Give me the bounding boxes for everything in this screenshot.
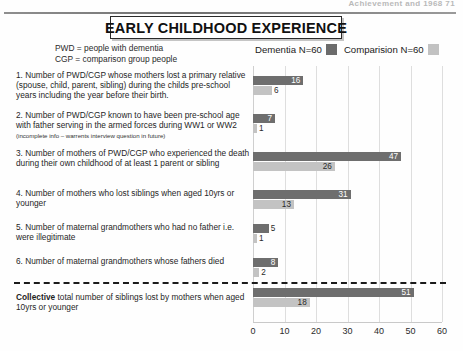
bar-value-4-comparison: 13 bbox=[282, 200, 294, 209]
legend-item-dementia: Dementia N=60 bbox=[255, 44, 337, 55]
x-tick-label-40: 40 bbox=[374, 326, 384, 336]
bar-1-comparison: 6 bbox=[253, 86, 272, 95]
legend-item-comparison: Comparision N=60 bbox=[344, 44, 439, 55]
abbreviation-key: PWD = people with dementia CGP = compari… bbox=[55, 43, 177, 64]
bar-value-6-dementia: 8 bbox=[271, 258, 279, 267]
bar-group-3: 4726 bbox=[253, 152, 442, 172]
x-tick-label-10: 10 bbox=[279, 326, 289, 336]
bar-value-collective-comparison: 18 bbox=[298, 298, 310, 307]
bar-value-6-comparison: 2 bbox=[259, 268, 266, 277]
bar-value-5-comparison: 1 bbox=[257, 234, 264, 243]
item-note-2: (incomplete info – warrents interview qu… bbox=[16, 131, 252, 141]
bar-1-dementia: 16 bbox=[253, 76, 303, 85]
item-number-4: 4. bbox=[16, 188, 23, 198]
item-text-6: Number of maternal grandmothers whose fa… bbox=[25, 256, 224, 266]
item-number-3: 3. bbox=[16, 148, 23, 158]
bar-value-4-dementia: 31 bbox=[339, 190, 351, 199]
item-number-2: 2. bbox=[16, 110, 23, 120]
bar-group-6: 82 bbox=[253, 258, 442, 278]
x-tick-label-0: 0 bbox=[250, 326, 255, 336]
bar-value-5-dementia: 5 bbox=[269, 224, 276, 233]
bar-group-collective: 5118 bbox=[253, 288, 442, 308]
key-line-cgp: CGP = comparison group people bbox=[55, 54, 177, 65]
bar-group-5: 51 bbox=[253, 224, 442, 244]
item-number-5: 5. bbox=[16, 222, 23, 232]
bar-value-1-dementia: 16 bbox=[291, 76, 303, 85]
item-text-1: Number of PWD/CGP whose mothers lost a p… bbox=[16, 70, 245, 100]
bar-3-comparison: 26 bbox=[253, 162, 335, 171]
bar-5-dementia: 5 bbox=[253, 224, 269, 233]
item-label-2: 2. Number of PWD/CGP known to have been … bbox=[16, 110, 252, 141]
chart-legend: Dementia N=60 Comparision N=60 bbox=[255, 44, 439, 55]
item-label-collective: Collective total number of siblings lost… bbox=[16, 292, 246, 312]
item-label-6: 6. Number of maternal grandmothers whose… bbox=[16, 256, 252, 266]
collective-lead: Collective bbox=[16, 292, 55, 302]
item-label-5: 5. Number of maternal grandmothers who h… bbox=[16, 222, 252, 242]
item-text-3: Number of mothers of PWD/CGP who experie… bbox=[16, 148, 249, 168]
chart-title-box: EARLY CHILDHOOD EXPERIENCE bbox=[110, 16, 342, 39]
x-tick-label-60: 60 bbox=[437, 326, 447, 336]
bar-value-2-dementia: 7 bbox=[267, 114, 275, 123]
item-number-6: 6. bbox=[16, 256, 23, 266]
chart-page: Achievement and 1968 71 EARLY CHILDHOOD … bbox=[0, 0, 463, 351]
item-text-2: Number of PWD/CGP known to have been pre… bbox=[16, 110, 240, 130]
legend-swatch-dementia bbox=[326, 44, 337, 55]
bar-collective-comparison: 18 bbox=[253, 298, 310, 307]
bar-4-comparison: 13 bbox=[253, 200, 294, 209]
legend-label-comparison: Comparision N=60 bbox=[344, 44, 424, 55]
bar-2-comparison: 1 bbox=[253, 124, 257, 133]
section-divider bbox=[14, 282, 446, 284]
item-label-4: 4. Number of mothers who lost siblings w… bbox=[16, 188, 252, 208]
bar-4-dementia: 31 bbox=[253, 190, 351, 199]
bar-value-1-comparison: 6 bbox=[272, 86, 279, 95]
x-axis-line bbox=[253, 322, 442, 323]
bar-collective-dementia: 51 bbox=[253, 288, 414, 297]
bar-value-2-comparison: 1 bbox=[257, 124, 264, 133]
bar-group-4: 3113 bbox=[253, 190, 442, 210]
bar-6-dementia: 8 bbox=[253, 258, 278, 267]
bar-value-collective-dementia: 51 bbox=[402, 288, 414, 297]
x-tick-label-50: 50 bbox=[405, 326, 415, 336]
item-text-4: Number of mothers who lost siblings when… bbox=[16, 188, 234, 208]
chart-title: EARLY CHILDHOOD EXPERIENCE bbox=[105, 20, 347, 36]
page-header-text: Achievement and 1968 71 bbox=[348, 0, 455, 8]
bar-5-comparison: 1 bbox=[253, 234, 257, 243]
item-label-1: 1. Number of PWD/CGP whose mothers lost … bbox=[16, 70, 252, 101]
x-tick-label-20: 20 bbox=[311, 326, 321, 336]
header-rule bbox=[4, 12, 456, 14]
page-header: Achievement and 1968 71 bbox=[0, 0, 463, 14]
legend-swatch-comparison bbox=[428, 44, 439, 55]
item-number-1: 1. bbox=[16, 70, 23, 80]
bar-value-3-dementia: 47 bbox=[389, 152, 401, 161]
bar-group-2: 71 bbox=[253, 114, 442, 134]
bar-2-dementia: 7 bbox=[253, 114, 275, 123]
x-tick-label-30: 30 bbox=[342, 326, 352, 336]
item-text-5: Number of maternal grandmothers who had … bbox=[16, 222, 234, 242]
legend-label-dementia: Dementia N=60 bbox=[255, 44, 322, 55]
bar-3-dementia: 47 bbox=[253, 152, 401, 161]
bar-value-3-comparison: 26 bbox=[323, 162, 335, 171]
bar-6-comparison: 2 bbox=[253, 268, 259, 277]
item-label-3: 3. Number of mothers of PWD/CGP who expe… bbox=[16, 148, 252, 168]
bar-group-1: 166 bbox=[253, 76, 442, 96]
key-line-pwd: PWD = people with dementia bbox=[55, 43, 177, 54]
